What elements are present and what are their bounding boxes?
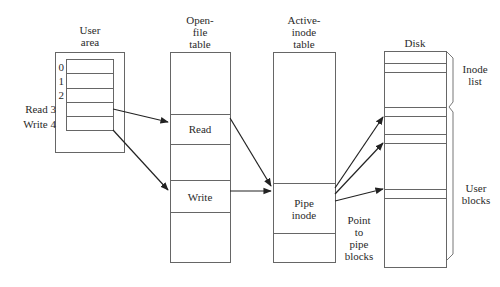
pipe-inode-entry: Pipe inode xyxy=(273,197,335,221)
active-inode-table-box xyxy=(273,53,336,263)
open-file-write-entry: Write xyxy=(170,191,230,203)
disk-title: Disk xyxy=(390,37,440,49)
user-area-box xyxy=(56,53,125,153)
arrow-pipe-inode-to-block-2 xyxy=(335,143,383,194)
open-file-table-title: Open- file table xyxy=(175,14,225,50)
inode-list-label: Inode list xyxy=(455,63,495,87)
user-blocks-label: User blocks xyxy=(455,182,497,206)
slot-index-1: 1 xyxy=(40,75,64,87)
inode-list-brace xyxy=(447,52,453,112)
open-file-table-box xyxy=(170,53,231,263)
arrow-pipe-inode-to-block-1 xyxy=(335,117,383,188)
arrow-write-fd-to-open-file xyxy=(113,130,168,190)
slot-label-read: Read 3 xyxy=(10,103,56,115)
user-blocks-brace xyxy=(447,112,453,260)
disk-box xyxy=(384,52,447,268)
active-inode-table-title: Active- inode table xyxy=(276,14,332,50)
user-area-title: User area xyxy=(70,24,110,48)
slot-index-2: 2 xyxy=(40,89,64,101)
arrows xyxy=(113,109,383,201)
slot-index-0: 0 xyxy=(40,61,64,73)
point-to-pipe-blocks-note: Point to pipe blocks xyxy=(338,214,380,262)
open-file-read-entry: Read xyxy=(170,123,230,135)
arrow-read-entry-to-pipe-inode xyxy=(230,118,271,186)
arrow-read-fd-to-open-file xyxy=(113,109,168,122)
arrow-pipe-inode-to-block-3 xyxy=(335,189,383,201)
slot-label-write: Write 4 xyxy=(10,118,56,130)
